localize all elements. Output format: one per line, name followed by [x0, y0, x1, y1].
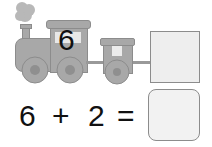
chimney-cap: [20, 24, 32, 29]
engine-wheels: [20, 56, 90, 86]
equation-operator: +: [52, 101, 70, 131]
empty-box: [150, 31, 200, 83]
train-car-roof: [100, 38, 135, 46]
answer-box[interactable]: [148, 89, 200, 141]
equation-equals: =: [117, 101, 135, 131]
equation-right: 2: [88, 101, 105, 131]
train-car-window: [112, 46, 122, 56]
train-car-wheel: [103, 58, 133, 86]
equation-left: 6: [19, 101, 36, 131]
engine-number: 6: [58, 25, 75, 55]
smoke-icon: [12, 0, 38, 26]
